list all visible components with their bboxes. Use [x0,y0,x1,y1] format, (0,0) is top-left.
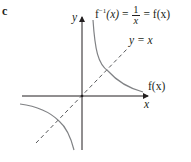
identity-line-label: y = x [129,34,153,46]
origin-point [81,95,84,98]
curve-equation-label: f−1(x) = 1x = f(x) [95,5,170,26]
curve-eq2: = [143,8,150,20]
branch-label: f(x) [148,80,165,92]
x-axis-label: x [144,98,149,110]
hyperbola-upper-branch [93,20,143,92]
curve-eq1: = [122,8,129,20]
curve-rhs: f(x) [153,8,170,20]
y-axis-label: y [72,11,77,23]
part-label: c [2,4,7,19]
curve-arg: (x) [106,8,119,20]
hyperbola-lower-branch [20,104,74,150]
fraction-denominator: x [132,16,139,26]
curve-fraction: 1x [132,5,139,26]
